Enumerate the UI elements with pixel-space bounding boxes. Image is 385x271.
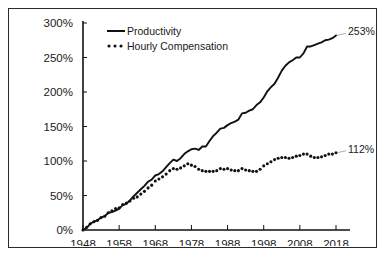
y-tick-label: 250% [44, 52, 73, 64]
series-dot [244, 168, 247, 171]
series-dot [81, 228, 84, 231]
chart-frame: 0%50%100%150%200%250%300% 19481958196819… [8, 8, 377, 248]
series-dot [92, 220, 95, 223]
axis-lines [83, 21, 350, 230]
series-dot [100, 216, 103, 219]
series-dot [161, 175, 164, 178]
series-dot [226, 167, 229, 170]
series-dot [230, 168, 233, 171]
series-dot [114, 207, 117, 210]
series-dot [266, 162, 269, 165]
x-tick-label: 1968 [142, 238, 168, 246]
series-dot [103, 215, 106, 218]
series-dot [110, 209, 113, 212]
series-dot [96, 219, 99, 222]
productivity-end-label: 253% [348, 25, 375, 37]
series-dot [291, 156, 294, 159]
series-dot [157, 177, 160, 180]
axis-tick-marks [83, 23, 336, 230]
series-dot [240, 167, 243, 170]
series-dot [85, 226, 88, 229]
legend-swatch-dot [113, 44, 116, 47]
series-dot [204, 170, 207, 173]
series-dot [128, 199, 131, 202]
series-dot [125, 202, 128, 205]
x-tick-label: 1948 [70, 238, 96, 246]
productivity-pay-gap-chart: 0%50%100%150%200%250%300% 19481958196819… [9, 9, 375, 246]
series-dots-hourly-compensation [81, 151, 337, 231]
series-dot [168, 169, 171, 172]
series-dot [233, 169, 236, 172]
legend-swatch-dot [107, 44, 110, 47]
series-dot [251, 170, 254, 173]
series-dot [215, 169, 218, 172]
x-axis-tick-labels: 19481958196819781988199820082018 [70, 238, 349, 246]
series-dot [118, 206, 121, 209]
y-tick-label: 200% [44, 86, 73, 98]
series-dot [327, 153, 330, 156]
series-dot [121, 203, 124, 206]
series-dot [89, 222, 92, 225]
series-dot [316, 156, 319, 159]
series-dot [306, 153, 309, 156]
series-dot [309, 155, 312, 158]
series-dot [324, 154, 327, 157]
y-tick-label: 0% [56, 224, 73, 236]
series-dot [280, 156, 283, 159]
series-dot [295, 155, 298, 158]
series-dot [175, 168, 178, 171]
series-dot [298, 154, 301, 157]
x-tick-label: 1958 [106, 238, 132, 246]
legend-label: Hourly Compensation [127, 40, 228, 52]
series-dot [320, 155, 323, 158]
y-tick-label: 50% [50, 190, 73, 202]
compensation-end-label: 112% [348, 143, 374, 155]
x-tick-label: 2008 [287, 238, 313, 246]
series-line-productivity [83, 35, 336, 230]
series-dot [302, 153, 305, 156]
y-axis-tick-labels: 0%50%100%150%200%250%300% [44, 17, 73, 236]
series-dot [208, 170, 211, 173]
x-tick-label: 2018 [323, 238, 349, 246]
series-dot [269, 160, 272, 163]
legend-swatch-dot [119, 44, 122, 47]
x-tick-label: 1988 [215, 238, 241, 246]
series-dot [154, 179, 157, 182]
series-dot [183, 164, 186, 167]
series-dot [139, 193, 142, 196]
series-dot [136, 195, 139, 198]
data-series-layer [81, 35, 337, 231]
series-dot [219, 167, 222, 170]
annotation-leader-line [337, 151, 346, 153]
series-dot [193, 165, 196, 168]
x-tick-label: 1998 [251, 238, 277, 246]
legend-label: Productivity [127, 25, 182, 37]
series-dot [262, 164, 265, 167]
series-dot [331, 153, 334, 156]
series-dot [259, 168, 262, 171]
series-dot [222, 168, 225, 171]
series-dot [201, 169, 204, 172]
series-dot [107, 211, 110, 214]
annotation-leader-line [337, 33, 346, 35]
chart-figure: 0%50%100%150%200%250%300% 19481958196819… [0, 0, 385, 271]
y-tick-label: 150% [44, 121, 73, 133]
series-dot [248, 169, 251, 172]
series-dot [255, 170, 258, 173]
series-dot [147, 186, 150, 189]
series-dot [190, 164, 193, 167]
y-tick-label: 100% [44, 155, 73, 167]
series-dot [284, 156, 287, 159]
series-dot [313, 156, 316, 159]
chart-legend: ProductivityHourly Compensation [107, 25, 228, 52]
series-dot [277, 157, 280, 160]
series-dot [197, 168, 200, 171]
annotation-layer: 253%112% [337, 25, 375, 154]
series-dot [237, 169, 240, 172]
series-dot [132, 197, 135, 200]
x-tick-label: 1978 [179, 238, 205, 246]
series-dot [212, 170, 215, 173]
series-dot [165, 173, 168, 176]
series-dot [172, 167, 175, 170]
series-dot [179, 166, 182, 169]
